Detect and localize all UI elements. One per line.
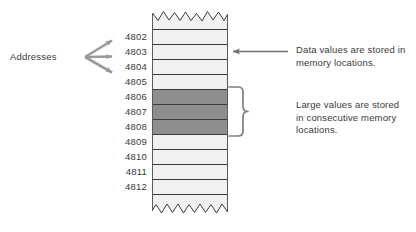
memory-cell-list [153,30,228,195]
memory-cell-highlighted [153,90,228,105]
torn-edge-icon [153,195,228,214]
annotation-large-values: Large values are stored in consecutive m… [296,99,416,137]
address-label-4805: 4805 [107,76,147,88]
memory-cell-highlighted [153,105,228,120]
annotation-line: in consecutive memory [296,112,416,125]
address-label-4806: 4806 [107,91,147,103]
address-label-4802: 4802 [107,31,147,43]
address-label-4811: 4811 [107,166,147,178]
memory-cell [153,150,228,165]
annotation-data-values: Data values are stored in memory locatio… [296,44,416,69]
memory-cell [153,75,228,90]
annotation-line: locations. [296,124,416,137]
address-label-4807: 4807 [107,106,147,118]
torn-edge-icon [153,12,228,30]
memory-cell [153,60,228,75]
annotation-line: memory locations. [296,57,416,70]
curly-brace-icon [229,87,248,136]
addresses-group-label: Addresses [10,51,57,62]
address-label-4812: 4812 [107,181,147,193]
memory-diagram: Addresses 4802 4803 4804 4805 4806 4807 … [0,0,416,232]
memory-cell [153,135,228,150]
address-label-4810: 4810 [107,151,147,163]
address-label-4809: 4809 [107,136,147,148]
address-label-4808: 4808 [107,121,147,133]
memory-cell [153,180,228,195]
memory-cell-highlighted [153,120,228,135]
memory-cell [153,30,228,45]
annotation-line: Large values are stored [296,99,416,112]
memory-cell [153,165,228,180]
address-label-4803: 4803 [107,46,147,58]
annotation-line: Data values are stored in [296,44,416,57]
memory-cell [153,45,228,60]
address-label-4804: 4804 [107,61,147,73]
